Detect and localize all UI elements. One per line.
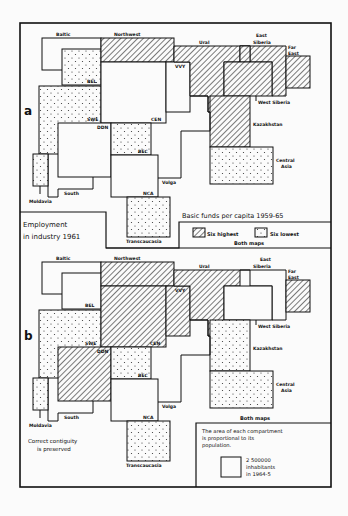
area-note-line2: is proportional to its: [202, 435, 254, 442]
label-ddn-a: DDN: [97, 125, 108, 130]
label-vvy-b: VVY: [175, 288, 186, 293]
label-bec-b: BEC: [138, 373, 149, 378]
contiguity-line2: is preserved: [37, 446, 71, 453]
label-ddn-b: DDN: [97, 349, 108, 354]
label-central-asia-2-a: Asia: [281, 164, 292, 169]
map-a: [33, 38, 310, 237]
label-vvy-a: VVY: [175, 64, 186, 69]
label-bel-b: BEL: [85, 303, 95, 308]
basic-funds-title: Basic funds per capita 1959-65: [182, 212, 284, 220]
label-east-siberia-1-b: East: [260, 257, 272, 262]
scale-line3: in 1964-5: [246, 471, 271, 477]
label-far-east-2-a: East: [288, 51, 300, 56]
both-maps-b: Both maps: [240, 415, 270, 422]
label-ural-b: Ural: [199, 264, 210, 269]
panel-b-label: b: [24, 329, 33, 343]
label-swe-a: SWE: [87, 117, 98, 122]
six-lowest-swatch: [255, 228, 267, 237]
label-far-east-1-b: Far: [288, 269, 297, 274]
employment-title-line2: in industry 1961: [23, 233, 80, 241]
label-transcaucasia-a: Transcaucasia: [126, 239, 162, 244]
legend-six-lowest: Six lowest: [270, 231, 299, 237]
legend-six-highest: Six highest: [207, 231, 239, 238]
label-central-asia-1-a: Central: [276, 158, 295, 163]
panel-a-label: a: [24, 104, 32, 118]
label-cen-a: CEN: [151, 117, 161, 122]
label-bel-a: BEL: [87, 79, 97, 84]
label-west-siberia-b: West Siberia: [258, 324, 290, 329]
scale-line1: 2 500000: [246, 457, 271, 463]
label-ural-a: Ural: [199, 40, 210, 45]
label-central-asia-2-b: Asia: [281, 388, 292, 393]
area-note-line3: population.: [202, 442, 232, 449]
label-far-east-1-a: Far: [288, 45, 297, 50]
label-baltic-a: Baltic: [56, 32, 71, 37]
label-cen-b: CEN: [150, 341, 160, 346]
legend-both-maps: Both maps: [234, 240, 264, 247]
label-baltic-b: Baltic: [56, 256, 71, 261]
scale-square: [221, 457, 241, 477]
scale-line2: inhabitants: [246, 464, 275, 470]
label-south-b: South: [64, 415, 79, 420]
label-far-east-2-b: East: [288, 275, 300, 280]
label-kazakhstan-b: Kazakhstan: [253, 346, 282, 351]
label-nca-a: NCA: [143, 191, 154, 196]
label-kazakhstan-a: Kazakhstan: [253, 122, 282, 127]
six-highest-swatch: [193, 228, 205, 237]
employment-title-line1: Employment: [23, 221, 68, 229]
divider-a-top: [20, 212, 331, 248]
label-northwest-b: Northwest: [114, 256, 141, 261]
label-central-asia-1-b: Central: [276, 382, 295, 387]
contiguity-line1: Correct contiguity: [28, 438, 78, 445]
label-west-siberia-a: West Siberia: [258, 100, 290, 105]
label-moldavia-b: Moldavia: [29, 423, 52, 428]
label-volga-b: Volga: [162, 404, 176, 409]
label-volga-a: Volga: [162, 180, 176, 185]
label-transcaucasia-b: Transcaucasia: [126, 463, 162, 468]
label-south-a: South: [64, 191, 79, 196]
area-note-line1: The area of each compartment: [201, 428, 283, 435]
label-northwest-a: Northwest: [114, 32, 141, 37]
label-east-siberia-1-a: East: [256, 33, 268, 38]
label-moldavia-a: Moldavia: [29, 199, 52, 204]
label-east-siberia-2-b: Siberia: [253, 264, 271, 269]
label-nca-b: NCA: [143, 415, 154, 420]
cartogram-figure: a b Baltic Northwest Ural East Siberia F…: [0, 0, 348, 516]
label-east-siberia-2-a: Siberia: [253, 40, 271, 45]
label-bec-a: BEC: [138, 149, 149, 154]
label-swe-b: SWE: [85, 341, 96, 346]
